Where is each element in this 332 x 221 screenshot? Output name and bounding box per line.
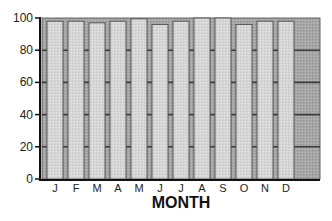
y-tick-label: 20 bbox=[20, 140, 34, 154]
y-tick-label: 100 bbox=[13, 11, 33, 25]
x-tick-label: N bbox=[261, 182, 269, 194]
y-axis-ticks: 020406080100 bbox=[13, 11, 40, 186]
x-tick-label: A bbox=[198, 182, 206, 194]
x-tick-label: M bbox=[92, 182, 101, 194]
bar bbox=[257, 21, 273, 179]
bar bbox=[131, 19, 147, 179]
y-tick-label: 40 bbox=[20, 108, 34, 122]
bar bbox=[110, 21, 126, 179]
bar bbox=[194, 18, 210, 179]
x-tick-label: S bbox=[219, 182, 226, 194]
y-tick-label: 0 bbox=[26, 172, 33, 186]
x-tick-label: J bbox=[52, 182, 58, 194]
bar bbox=[89, 23, 105, 179]
x-tick-label: A bbox=[114, 182, 122, 194]
x-tick-label: F bbox=[73, 182, 80, 194]
bar bbox=[173, 21, 189, 179]
x-tick-label: J bbox=[157, 182, 163, 194]
x-tick-label: J bbox=[178, 182, 184, 194]
bar bbox=[278, 21, 294, 179]
bar bbox=[152, 24, 168, 179]
x-axis-label: MONTH bbox=[152, 194, 211, 211]
y-tick-label: 60 bbox=[20, 75, 34, 89]
bar bbox=[215, 18, 231, 179]
y-tick-label: 80 bbox=[20, 43, 34, 57]
monthly-bar-chart: 020406080100 JFMAMJJASOND MONTH bbox=[0, 0, 332, 221]
x-axis-ticks: JFMAMJJASOND bbox=[52, 182, 290, 194]
x-tick-label: D bbox=[282, 182, 290, 194]
x-tick-label: O bbox=[240, 182, 249, 194]
bar bbox=[47, 21, 63, 179]
x-tick-label: M bbox=[134, 182, 143, 194]
bar bbox=[236, 24, 252, 179]
bar bbox=[68, 21, 84, 179]
